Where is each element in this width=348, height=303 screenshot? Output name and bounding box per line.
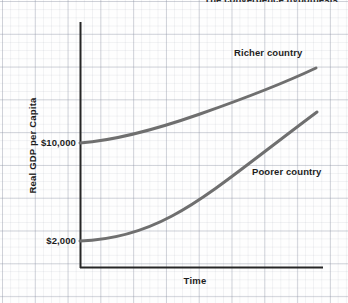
y-axis-title: Real GDP per Capita — [27, 86, 38, 206]
series-label-poorer-country: Poorer country — [252, 166, 322, 177]
plot-area — [0, 0, 348, 303]
x-axis-title: Time — [155, 275, 235, 286]
chart-screenshot: The convergence hypothesis Real GDP per … — [0, 0, 348, 303]
series-label-richer-country: Richer country — [234, 47, 302, 58]
series-line-richer-country — [80, 68, 316, 143]
y-tick-label-10000: $10,000 — [41, 137, 76, 148]
y-tick-label-2000: $2,000 — [46, 235, 76, 246]
